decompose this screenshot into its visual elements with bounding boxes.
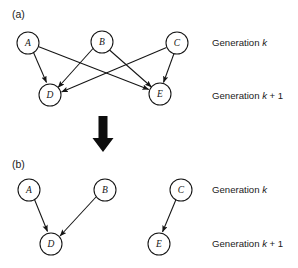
node-c-generation-k-panel-b[interactable]: C (170, 179, 192, 201)
generation-k-label-prefix: Generation (212, 184, 262, 195)
node-label: C (174, 38, 181, 48)
node-e-generation-k-plus-1[interactable]: E (149, 83, 171, 105)
node-label: A (25, 185, 32, 195)
node-a-generation-k-panel-b[interactable]: A (18, 179, 40, 201)
node-b-generation-k[interactable]: B (91, 31, 113, 53)
generation-k-label-italic: k (262, 37, 268, 48)
node-label: D (47, 239, 55, 249)
panel-b-tag: (b) (12, 158, 25, 170)
generation-k-label-panel-a: Generation k (212, 37, 268, 48)
panel-b-edges (35, 197, 177, 236)
generation-k-plus-1-label-panel-b: Generation k + 1 (212, 238, 283, 249)
panel-a-nodes: A B C D E (17, 31, 188, 106)
node-c-generation-k[interactable]: C (166, 32, 188, 54)
panel-b-nodes: A B C D E (18, 179, 192, 255)
node-label: B (102, 185, 108, 195)
node-e-generation-k-plus-1-panel-b[interactable]: E (148, 233, 170, 255)
node-b-generation-k-panel-b[interactable]: B (94, 179, 116, 201)
node-label: E (156, 89, 163, 99)
genealogy-figure: (a) A B (0, 0, 298, 268)
edge-b-to-d (58, 49, 93, 88)
edge-a-to-e (39, 47, 149, 90)
generation-k-plus-1-label-suffix: + 1 (267, 90, 283, 101)
edge-b-panel-c-to-e (163, 200, 177, 233)
edge-c-to-e (164, 54, 175, 83)
diagram-canvas: (a) A B (0, 0, 298, 268)
transition-arrow-group (93, 116, 114, 152)
generation-k-plus-1-label-prefix: Generation (212, 90, 262, 101)
generation-k-plus-1-label-panel-a: Generation k + 1 (212, 90, 283, 101)
generation-k-plus-1-label-suffix: + 1 (267, 238, 283, 249)
node-a-generation-k[interactable]: A (17, 32, 39, 54)
node-d-generation-k-plus-1[interactable]: D (39, 84, 61, 106)
node-label: C (178, 185, 185, 195)
downward-block-arrow (93, 116, 114, 152)
generation-k-label-italic: k (262, 184, 268, 195)
generation-k-label-panel-b: Generation k (212, 184, 268, 195)
edge-a-to-d (34, 53, 47, 83)
node-label: B (99, 37, 105, 47)
node-label: A (24, 38, 31, 48)
panel-a: (a) A B (12, 8, 283, 106)
panel-b: (b) A B C (12, 158, 283, 255)
generation-k-plus-1-label-prefix: Generation (212, 238, 262, 249)
panel-a-tag: (a) (12, 8, 25, 20)
edge-b-panel-b-to-d (60, 197, 96, 236)
node-label: E (155, 239, 162, 249)
generation-k-label-prefix: Generation (212, 37, 262, 48)
node-label: D (46, 90, 54, 100)
node-d-generation-k-plus-1-panel-b[interactable]: D (40, 233, 62, 255)
edge-b-panel-a-to-d (35, 200, 48, 232)
